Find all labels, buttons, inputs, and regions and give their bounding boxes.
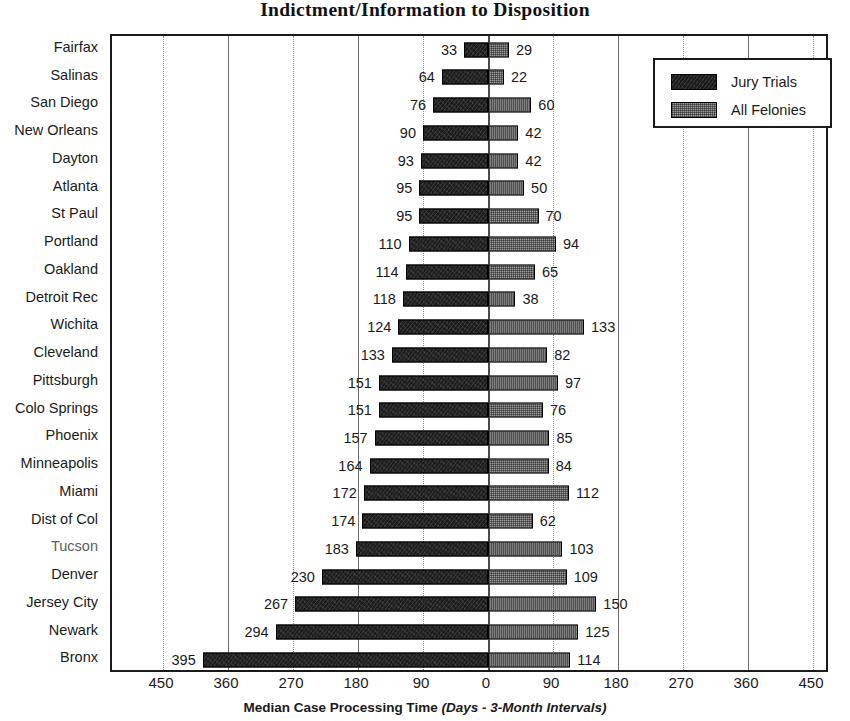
bar-value-jury-trials: 267 xyxy=(112,597,288,612)
bar-all-felonies xyxy=(488,181,524,196)
y-axis-label: Bronx xyxy=(60,644,98,671)
y-axis-label: Cleveland xyxy=(34,339,99,366)
y-axis-label: Dist of Col xyxy=(31,506,98,533)
bar-value-all-felonies: 94 xyxy=(563,237,579,252)
y-axis-label: Fairfax xyxy=(54,34,98,61)
bar-value-all-felonies: 125 xyxy=(585,625,609,640)
y-axis-label: Oakland xyxy=(44,256,98,283)
x-axis-tick: 90 xyxy=(543,674,560,691)
bar-value-all-felonies: 65 xyxy=(542,264,558,279)
bar-row: 15176 xyxy=(112,397,826,424)
bar-row: 15197 xyxy=(112,369,826,396)
x-axis-tick: 360 xyxy=(213,674,238,691)
x-axis-tick: 360 xyxy=(733,674,758,691)
bar-value-jury-trials: 151 xyxy=(112,403,372,418)
bar-jury-trials xyxy=(276,625,488,640)
bar-row: 15785 xyxy=(112,424,826,451)
bar-value-jury-trials: 118 xyxy=(112,292,396,307)
bar-all-felonies xyxy=(488,153,518,168)
y-axis-label: Pittsburgh xyxy=(33,367,98,394)
bar-row: 124133 xyxy=(112,313,826,340)
x-axis-tick: 90 xyxy=(413,674,430,691)
y-axis-label: New Orleans xyxy=(14,117,98,144)
x-axis-title-note: (Days - 3-Month Intervals) xyxy=(441,700,606,715)
bar-value-jury-trials: 151 xyxy=(112,375,372,390)
bar-value-all-felonies: 85 xyxy=(556,431,572,446)
bar-row: 230109 xyxy=(112,563,826,590)
bar-all-felonies xyxy=(488,486,569,501)
bar-row: 172112 xyxy=(112,480,826,507)
bar-value-all-felonies: 109 xyxy=(574,569,598,584)
y-axis-label: San Diego xyxy=(30,89,98,116)
x-axis-tick: 0 xyxy=(482,674,490,691)
y-axis-label: Denver xyxy=(51,561,98,588)
x-axis-tick: 270 xyxy=(668,674,693,691)
bar-jury-trials xyxy=(295,597,488,612)
x-axis-tick: 180 xyxy=(343,674,368,691)
bar-value-all-felonies: 82 xyxy=(554,348,570,363)
bar-value-all-felonies: 42 xyxy=(525,153,541,168)
y-axis-label: Minneapolis xyxy=(21,450,98,477)
bar-value-jury-trials: 174 xyxy=(112,514,355,529)
bar-value-jury-trials: 114 xyxy=(112,264,399,279)
bar-all-felonies xyxy=(488,375,558,390)
bar-jury-trials xyxy=(356,541,488,556)
bar-all-felonies xyxy=(488,125,518,140)
bar-jury-trials xyxy=(370,458,488,473)
bar-value-all-felonies: 38 xyxy=(522,292,538,307)
bar-value-all-felonies: 60 xyxy=(538,98,554,113)
legend-swatch-felony xyxy=(671,102,717,118)
y-axis-label: Miami xyxy=(59,478,98,505)
x-axis-tick-labels: 45036027018090090180270360450 xyxy=(110,674,828,698)
bar-jury-trials xyxy=(406,264,488,279)
bar-value-all-felonies: 84 xyxy=(556,458,572,473)
bar-all-felonies xyxy=(488,292,515,307)
bar-jury-trials xyxy=(403,292,488,307)
bar-jury-trials xyxy=(442,70,488,85)
bar-row: 11465 xyxy=(112,258,826,285)
bar-value-all-felonies: 50 xyxy=(531,181,547,196)
bar-value-all-felonies: 97 xyxy=(565,375,581,390)
bar-jury-trials xyxy=(419,181,488,196)
x-axis-tick: 270 xyxy=(278,674,303,691)
bar-value-jury-trials: 64 xyxy=(112,70,435,85)
bar-value-jury-trials: 124 xyxy=(112,320,391,335)
y-axis-label: Phoenix xyxy=(46,422,98,449)
bar-value-jury-trials: 157 xyxy=(112,431,368,446)
bar-all-felonies xyxy=(488,403,543,418)
bar-all-felonies xyxy=(488,70,504,85)
x-axis-title: Median Case Processing Time (Days - 3-Mo… xyxy=(0,700,850,715)
bar-row: 395114 xyxy=(112,646,826,672)
legend-swatch-jury xyxy=(671,74,717,90)
bar-all-felonies xyxy=(488,430,549,445)
bar-value-jury-trials: 395 xyxy=(112,653,196,668)
chart-title: Indictment/Information to Disposition xyxy=(0,0,850,21)
bar-row: 11094 xyxy=(112,230,826,257)
bar-value-all-felonies: 112 xyxy=(576,486,599,501)
bar-all-felonies xyxy=(488,597,596,612)
y-axis-label: Detroit Rec xyxy=(25,284,98,311)
bar-value-all-felonies: 22 xyxy=(511,70,527,85)
bar-row: 9342 xyxy=(112,147,826,174)
plot-area: 3329642276609042934295509570110941146511… xyxy=(110,34,828,672)
bar-value-jury-trials: 183 xyxy=(112,542,349,557)
y-axis-label: Dayton xyxy=(52,145,98,172)
bar-value-all-felonies: 42 xyxy=(525,126,541,141)
bar-value-all-felonies: 76 xyxy=(550,403,566,418)
bar-jury-trials xyxy=(392,347,488,362)
legend-label: Jury Trials xyxy=(731,74,797,90)
y-axis-label: Jersey City xyxy=(26,589,98,616)
bar-jury-trials xyxy=(375,430,488,445)
bar-value-all-felonies: 70 xyxy=(546,209,562,224)
bar-all-felonies xyxy=(488,458,549,473)
y-axis-label: Newark xyxy=(49,617,98,644)
bar-all-felonies xyxy=(488,236,556,251)
bar-row: 9570 xyxy=(112,202,826,229)
bar-all-felonies xyxy=(488,264,535,279)
bar-value-jury-trials: 230 xyxy=(112,569,315,584)
bar-value-jury-trials: 133 xyxy=(112,348,385,363)
bar-row: 17462 xyxy=(112,508,826,535)
bar-all-felonies xyxy=(488,347,547,362)
bar-value-all-felonies: 150 xyxy=(603,597,627,612)
bar-jury-trials xyxy=(419,209,488,224)
